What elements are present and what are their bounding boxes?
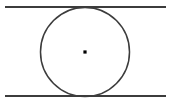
geometry-figure-canvas xyxy=(0,0,172,107)
center-point-dot xyxy=(83,50,86,53)
geometry-diagram-svg xyxy=(0,0,172,107)
